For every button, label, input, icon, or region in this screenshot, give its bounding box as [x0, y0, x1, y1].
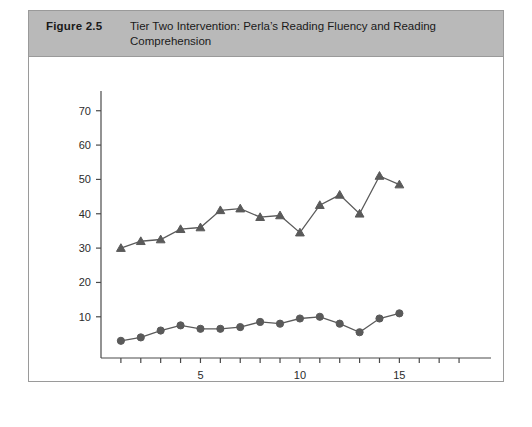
data-point-marker [276, 211, 285, 219]
data-point-marker [296, 315, 303, 322]
data-point-marker [156, 235, 165, 243]
data-point-marker [375, 172, 384, 180]
x-axis-tick-label: 10 [294, 369, 306, 381]
data-point-marker [117, 337, 124, 344]
data-point-marker [376, 315, 383, 322]
x-axis-tick-label: 5 [197, 369, 203, 381]
y-axis-tick-label: 50 [79, 173, 91, 185]
figure-card: Figure 2.5 Tier Two Intervention: Perla’… [28, 10, 504, 382]
data-point-marker [276, 320, 283, 327]
data-point-marker [315, 201, 324, 209]
y-axis-tick-label: 70 [79, 105, 91, 117]
data-point-marker [316, 313, 323, 320]
y-axis-tick-label: 60 [79, 139, 91, 151]
data-point-marker [137, 334, 144, 341]
chart-plot-area: 1020304050607051015Reading Comprehension… [29, 57, 505, 382]
data-point-marker [335, 190, 344, 198]
figure-header: Figure 2.5 Tier Two Intervention: Perla’… [29, 11, 503, 57]
data-point-marker [237, 323, 244, 330]
data-point-marker [356, 329, 363, 336]
series-reading-comprehension [117, 310, 403, 345]
data-point-marker [236, 204, 245, 212]
figure-number: Figure 2.5 [46, 20, 102, 32]
y-axis-tick-label: 30 [79, 242, 91, 254]
data-point-marker [396, 310, 403, 317]
y-axis-tick-label: 10 [79, 311, 91, 323]
line-chart: 1020304050607051015Reading Comprehension… [29, 57, 505, 382]
data-point-marker [157, 327, 164, 334]
data-point-marker [336, 320, 343, 327]
data-point-marker [197, 325, 204, 332]
data-point-marker [257, 318, 264, 325]
y-axis-tick-label: 40 [79, 208, 91, 220]
series-reading-fluency [116, 172, 403, 252]
figure-title: Tier Two Intervention: Perla’s Reading F… [130, 19, 488, 48]
data-point-marker [177, 322, 184, 329]
data-point-marker [217, 325, 224, 332]
x-axis-tick-label: 15 [393, 369, 405, 381]
data-point-marker [395, 180, 404, 188]
y-axis-tick-label: 20 [79, 276, 91, 288]
